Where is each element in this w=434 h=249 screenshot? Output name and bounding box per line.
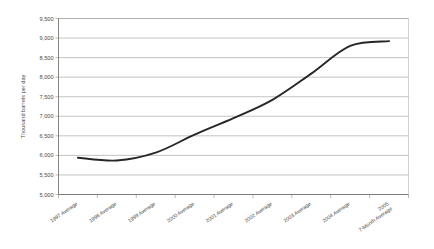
chart-canvas: 5,0005,5006,0006,5007,0007,5008,0008,500… <box>0 0 434 249</box>
y-tick-label: 9,000 <box>40 35 54 41</box>
y-tick-label: 5,000 <box>40 192 54 198</box>
y-tick-label: 6,000 <box>40 152 54 158</box>
y-tick-label: 7,500 <box>40 94 54 100</box>
y-tick-label: 7,000 <box>40 113 54 119</box>
y-axis-title: Thousand barrels per day <box>20 74 26 138</box>
y-tick-label: 5,500 <box>40 172 54 178</box>
y-tick-label: 8,500 <box>40 55 54 61</box>
y-tick-label: 8,000 <box>40 74 54 80</box>
y-tick-label: 6,500 <box>40 133 54 139</box>
y-tick-label: 9,500 <box>40 16 54 22</box>
line-chart: 5,0005,5006,0006,5007,0007,5008,0008,500… <box>0 0 434 249</box>
